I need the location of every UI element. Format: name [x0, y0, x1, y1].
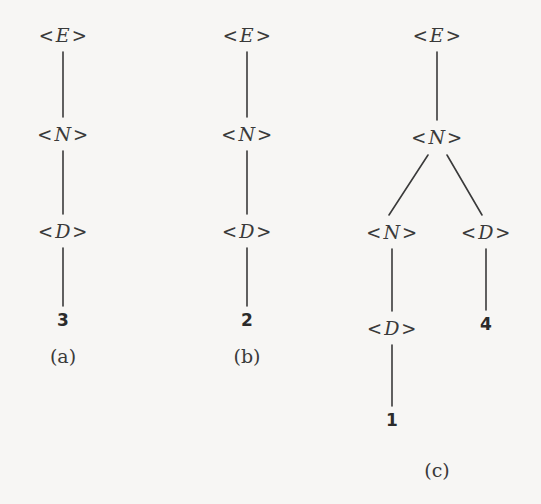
node-c-n-left: <N> [366, 223, 417, 242]
node-b-n: <N> [221, 125, 272, 144]
node-c-d-left: <D> [367, 319, 417, 338]
angle-bracket-close: > [401, 317, 417, 338]
angle-bracket-close: > [72, 24, 88, 45]
angle-bracket-open: < [366, 221, 382, 242]
angle-bracket-close: > [402, 221, 418, 242]
nonterminal-symbol: N [53, 123, 73, 145]
angle-bracket-open: < [461, 221, 477, 242]
nonterminal-symbol: D [383, 317, 402, 339]
angle-bracket-close: > [446, 24, 462, 45]
nonterminal-symbol: N [237, 123, 257, 145]
angle-bracket-open: < [223, 24, 239, 45]
caption-tree-b: (b) [234, 347, 261, 366]
terminal-b-2: 2 [241, 312, 253, 329]
angle-bracket-close: > [495, 221, 511, 242]
nonterminal-symbol: D [54, 220, 73, 242]
terminal-c-1: 1 [386, 412, 398, 429]
angle-bracket-close: > [73, 123, 89, 144]
node-c-d-right: <D> [461, 223, 511, 242]
angle-bracket-open: < [411, 126, 427, 147]
nonterminal-symbol: N [382, 221, 402, 243]
node-c-n-root: <N> [411, 128, 462, 147]
nonterminal-symbol: E [54, 24, 71, 46]
caption-tree-c: (c) [424, 461, 449, 480]
angle-bracket-open: < [221, 123, 237, 144]
angle-bracket-open: < [222, 220, 238, 241]
node-a-d: <D> [38, 222, 88, 241]
nonterminal-symbol: N [427, 126, 447, 148]
nonterminal-symbol: E [238, 24, 255, 46]
angle-bracket-open: < [413, 24, 429, 45]
terminal-c-4: 4 [480, 316, 492, 333]
angle-bracket-open: < [367, 317, 383, 338]
tree-edges-layer [0, 0, 541, 504]
node-c-e: <E> [413, 26, 462, 45]
node-b-d: <D> [222, 222, 272, 241]
nonterminal-symbol: D [238, 220, 257, 242]
parse-tree-figure: <E><N><D>3(a)<E><N><D>2(b)<E><N><N><D><D… [0, 0, 541, 504]
node-a-e: <E> [39, 26, 88, 45]
angle-bracket-close: > [447, 126, 463, 147]
nonterminal-symbol: E [428, 24, 445, 46]
angle-bracket-close: > [72, 220, 88, 241]
angle-bracket-open: < [39, 24, 55, 45]
angle-bracket-close: > [256, 220, 272, 241]
angle-bracket-open: < [37, 123, 53, 144]
edge-c-n-dright [447, 155, 482, 215]
node-a-n: <N> [37, 125, 88, 144]
node-b-e: <E> [223, 26, 272, 45]
nonterminal-symbol: D [477, 221, 496, 243]
angle-bracket-close: > [256, 24, 272, 45]
angle-bracket-open: < [38, 220, 54, 241]
terminal-a-3: 3 [57, 312, 69, 329]
angle-bracket-close: > [257, 123, 273, 144]
caption-tree-a: (a) [50, 347, 76, 366]
edge-c-n-nleft [389, 155, 428, 215]
